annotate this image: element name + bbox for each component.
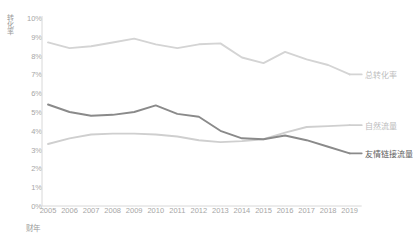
series-label-2: 友情链接流量 xyxy=(365,148,413,159)
series-line-1 xyxy=(48,125,350,144)
series-line-2 xyxy=(48,104,350,153)
series-layer xyxy=(48,39,362,154)
series-label-0: 总转化率 xyxy=(365,69,397,80)
series-label-1: 自然流量 xyxy=(365,120,397,131)
series-line-0 xyxy=(48,39,350,75)
